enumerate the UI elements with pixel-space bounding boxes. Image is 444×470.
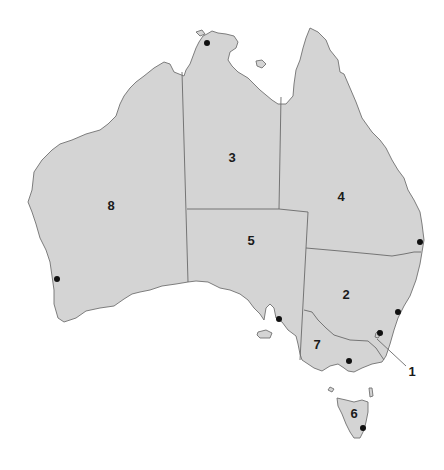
- region-label-wa: 8: [107, 198, 114, 213]
- king-island: [328, 387, 334, 392]
- city-dot-melbourne: [346, 358, 352, 364]
- australia-map: [0, 0, 444, 470]
- city-dot-brisbane: [417, 239, 423, 245]
- region-label-act: 1: [408, 364, 415, 379]
- city-dot-perth: [54, 276, 60, 282]
- kangaroo-island: [257, 330, 272, 338]
- region-label-vic: 7: [313, 337, 320, 352]
- region-label-nsw: 2: [342, 287, 349, 302]
- city-dot-darwin: [204, 40, 210, 46]
- groote-eylandt: [256, 60, 266, 68]
- region-label-qld: 4: [337, 189, 344, 204]
- flinders-island: [369, 388, 373, 397]
- region-label-sa: 5: [247, 233, 254, 248]
- melville-island: [196, 30, 205, 36]
- city-dot-hobart: [360, 425, 366, 431]
- city-dot-adelaide: [276, 316, 282, 322]
- city-dot-canberra: [377, 330, 383, 336]
- city-dot-sydney: [395, 309, 401, 315]
- region-label-tas: 6: [350, 406, 357, 421]
- region-label-nt: 3: [228, 150, 235, 165]
- mainland: [28, 28, 424, 372]
